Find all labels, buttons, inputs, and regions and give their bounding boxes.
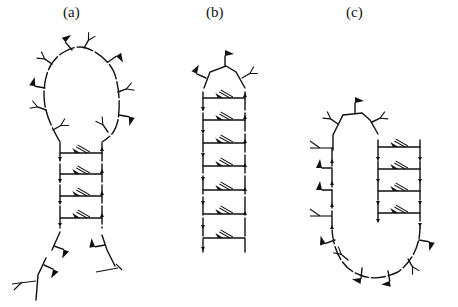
- stem-a-rungs: [60, 145, 102, 218]
- panel-a-structure: [12, 32, 135, 300]
- panel-c-structure: [310, 97, 435, 288]
- diagram-canvas: [0, 0, 458, 307]
- stem-c-rungs: [378, 139, 420, 213]
- stem-b-rungs: [203, 90, 245, 238]
- panel-b-structure: [191, 50, 257, 252]
